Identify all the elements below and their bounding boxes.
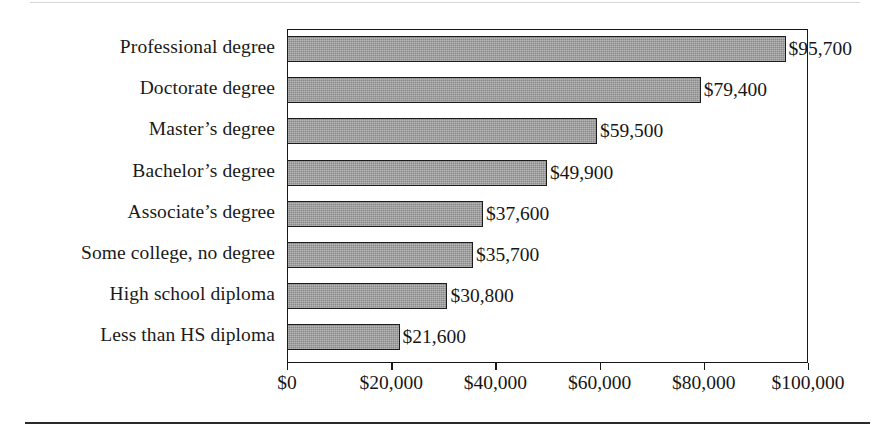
bar-row: $59,500 — [287, 118, 808, 144]
bar — [287, 324, 400, 350]
category-label: Less than HS diploma — [0, 322, 281, 348]
bar-value-label: $49,900 — [547, 159, 613, 186]
bar — [287, 160, 547, 186]
bar-row: $95,700 — [287, 36, 808, 62]
bar-value-label: $95,700 — [786, 35, 852, 62]
axis-tick-label: $100,000 — [771, 371, 844, 395]
axis-tick — [704, 363, 705, 370]
axis-tick — [287, 363, 288, 370]
category-label: Bachelor’s degree — [0, 158, 281, 184]
bar — [287, 118, 597, 144]
bar-row: $30,800 — [287, 283, 808, 309]
bar-value-label: $30,800 — [447, 282, 513, 309]
bar-row: $21,600 — [287, 324, 808, 350]
category-label: High school diploma — [0, 281, 281, 307]
bars-layer: $95,700$79,400$59,500$49,900$37,600$35,7… — [287, 29, 808, 363]
bar-row: $79,400 — [287, 77, 808, 103]
bar-value-label: $35,700 — [473, 241, 539, 268]
bar-chart-figure: Professional degreeDoctorate degreeMaste… — [0, 0, 893, 434]
bar-row: $35,700 — [287, 242, 808, 268]
value-axis: $0$20,000$40,000$60,000$80,000$100,000 — [287, 363, 808, 423]
bar — [287, 283, 447, 309]
bar — [287, 242, 473, 268]
bar — [287, 77, 701, 103]
bar-value-label: $37,600 — [483, 200, 549, 227]
bar-value-label: $79,400 — [701, 76, 767, 103]
category-label: Doctorate degree — [0, 75, 281, 101]
category-axis-labels: Professional degreeDoctorate degreeMaste… — [0, 29, 281, 363]
page-bottom-rule — [25, 422, 870, 424]
bar — [287, 201, 483, 227]
page-top-rule — [30, 2, 860, 3]
bar-row: $49,900 — [287, 160, 808, 186]
axis-tick-label: $20,000 — [360, 371, 423, 395]
bar — [287, 36, 786, 62]
category-label: Master’s degree — [0, 116, 281, 142]
axis-tick-label: $60,000 — [568, 371, 631, 395]
axis-tick-label: $80,000 — [672, 371, 735, 395]
axis-tick — [391, 363, 392, 370]
bar-row: $37,600 — [287, 201, 808, 227]
category-label: Professional degree — [0, 34, 281, 60]
bar-value-label: $59,500 — [597, 117, 663, 144]
bar-value-label: $21,600 — [400, 323, 466, 350]
axis-tick-label: $0 — [277, 371, 297, 395]
axis-tick — [808, 363, 809, 370]
axis-tick — [495, 363, 496, 370]
axis-tick-label: $40,000 — [464, 371, 527, 395]
category-label: Some college, no degree — [0, 240, 281, 266]
axis-tick — [600, 363, 601, 370]
category-label: Associate’s degree — [0, 199, 281, 225]
